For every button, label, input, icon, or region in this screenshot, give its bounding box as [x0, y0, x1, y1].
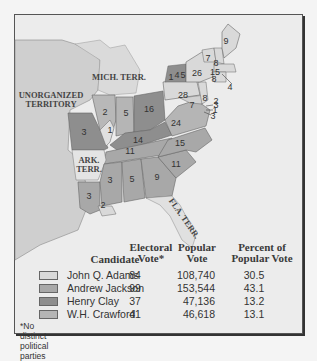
state-vote: 8 [211, 74, 216, 84]
state-vote: 14 [133, 135, 143, 145]
state-vote: 28 [178, 90, 188, 100]
state-vote: 2 [213, 96, 218, 106]
state-vote: 1 [168, 72, 173, 82]
state-vote: 4 [227, 82, 232, 92]
state-vote: 8 [202, 93, 207, 103]
state-vote: 2 [100, 200, 105, 210]
popular-vote: 108,740 [163, 269, 215, 281]
state-vote: 24 [171, 118, 181, 128]
territory-label: TERR. [76, 164, 102, 174]
electoral-vote: 37 [115, 295, 155, 307]
state-vote: 15 [175, 138, 185, 148]
header-electoral-line2: Vote* [126, 253, 176, 264]
percent-vote: 13.1 [219, 308, 289, 320]
state-vote: 9 [154, 172, 159, 182]
header-electoral: Electoral Vote* [126, 242, 176, 264]
state-vote: 5 [123, 108, 128, 118]
state-vote: 11 [125, 146, 134, 156]
legend-swatch [39, 284, 58, 293]
state-vote: 16 [144, 104, 154, 114]
percent-vote: 43.1 [219, 282, 289, 294]
state-vote: 3 [81, 127, 86, 137]
popular-vote: 47,136 [163, 295, 215, 307]
state-vote: 11 [171, 159, 180, 169]
header-popular-line2: Vote [172, 253, 222, 264]
state-vote: 3 [210, 111, 215, 121]
state-vote: 3 [107, 175, 112, 185]
header-popular: Popular Vote [172, 242, 222, 264]
footnote: *No distinct political parties [20, 321, 48, 361]
legend-swatch [39, 310, 58, 319]
popular-vote: 46,618 [163, 308, 215, 320]
header-percent-line2: Popular Vote [222, 253, 302, 264]
territory-label: MICH. TERR. [92, 72, 146, 82]
state-vote: 5 [180, 70, 185, 80]
percent-vote: 13.2 [219, 295, 289, 307]
state-vote: 1 [107, 125, 112, 135]
legend-swatch [39, 271, 58, 280]
header-percent: Percent of Popular Vote [222, 242, 302, 264]
territory-label: TERRITORY [25, 99, 76, 109]
popular-vote: 153,544 [163, 282, 215, 294]
state-vote: 7 [205, 53, 210, 63]
percent-vote: 30.5 [219, 269, 289, 281]
table-row: W.H. Crawford 41 46,618 13.1 [39, 307, 299, 323]
state-vote: 26 [192, 68, 202, 78]
state-vote: 7 [189, 100, 194, 110]
state-vote: 5 [129, 174, 134, 184]
electoral-vote: 41 [115, 308, 155, 320]
electoral-vote: 84 [115, 269, 155, 281]
legend-swatch [39, 297, 58, 306]
state-vote: 2 [102, 107, 107, 117]
state-vote: 4 [174, 70, 179, 80]
electoral-vote: 99 [115, 282, 155, 294]
candidate-name: Henry Clay [67, 295, 119, 307]
state-vote: 9 [223, 36, 228, 46]
